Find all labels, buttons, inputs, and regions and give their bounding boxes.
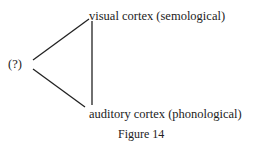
edge-root-to-visual: [33, 19, 89, 60]
figure-caption: Figure 14: [118, 128, 164, 140]
edge-root-to-auditory: [33, 69, 85, 107]
root-node-label: (?): [8, 58, 22, 71]
auditory-cortex-label: auditory cortex (phonological): [89, 108, 242, 121]
visual-cortex-label: visual cortex (semological): [89, 10, 225, 23]
